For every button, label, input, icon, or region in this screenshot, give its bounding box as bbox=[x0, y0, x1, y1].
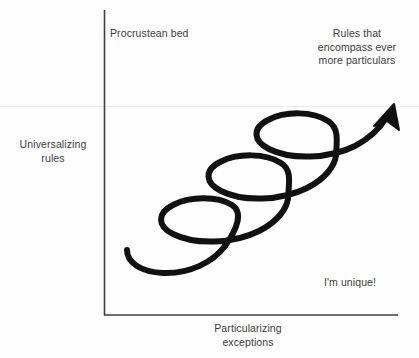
annotation-im-unique: I'm unique! bbox=[300, 276, 400, 290]
spiral-curve bbox=[127, 113, 386, 273]
annotation-rules-encompass: Rules that encompass ever more particula… bbox=[298, 27, 416, 68]
y-axis-label: Universalizing rules bbox=[8, 138, 98, 165]
figure-page: Procrustean bed Rules that encompass eve… bbox=[0, 0, 419, 358]
annotation-procrustean-bed: Procrustean bed bbox=[110, 27, 189, 41]
x-axis-label: Particularizing exceptions bbox=[193, 322, 303, 349]
